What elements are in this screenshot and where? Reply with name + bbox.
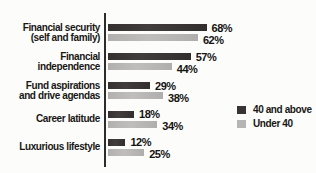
value-label: 44% [177,63,198,75]
chart-row: Financial independence57%44% [0,52,316,71]
value-label: 62% [203,34,224,46]
value-label: 68% [212,22,233,34]
category-label: Fund aspirationsand drive agendas [0,81,106,100]
bar-group: 12%25% [106,138,316,156]
value-label: 57% [196,51,217,63]
bar-40-and-above [108,53,191,60]
chart-row: Financial security(self and family)68%62… [0,23,316,42]
legend: 40 and above Under 40 [237,104,312,132]
bar-under-40 [108,121,157,128]
category-label: Financial independence [0,52,106,71]
category-label: Career latitude [0,114,106,124]
bar-under-40 [108,92,163,99]
bar-chart: Financial security(self and family)68%62… [0,0,316,173]
legend-item-under-40: Under 40 [237,118,312,129]
chart-row: Fund aspirationsand drive agendas29%38% [0,81,316,100]
bar-under-40 [108,63,172,70]
legend-label-under-40: Under 40 [253,118,293,129]
legend-swatch-40-and-above [237,106,246,114]
value-label: 34% [162,120,183,132]
value-label: 18% [139,108,160,120]
bar-40-and-above [108,82,150,89]
bar-under-40 [108,149,144,156]
bar-group: 29%38% [106,82,316,100]
bar-under-40 [108,34,198,41]
category-label: Luxurious lifestyle [0,142,106,152]
chart-rows: Financial security(self and family)68%62… [0,23,316,166]
value-label: 38% [168,92,189,104]
bar-40-and-above [108,24,207,31]
bar-group: 68%62% [106,24,316,42]
category-label: Financial security(self and family) [0,23,106,42]
bar-40-and-above [108,139,125,146]
value-label: 29% [155,80,176,92]
legend-item-40-and-above: 40 and above [237,104,312,115]
bar-group: 57%44% [106,53,316,71]
legend-swatch-under-40 [237,120,246,128]
bar-40-and-above [108,111,134,118]
chart-row: Luxurious lifestyle12%25% [0,138,316,156]
value-label: 12% [130,136,151,148]
legend-label-40-and-above: 40 and above [253,104,312,115]
value-label: 25% [149,148,170,160]
